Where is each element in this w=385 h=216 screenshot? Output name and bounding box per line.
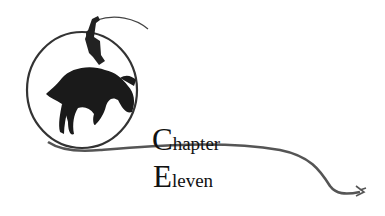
heading-word-leven: leven (172, 170, 213, 191)
drop-cap-e: E (153, 159, 172, 194)
chapter-heading-line1: Chapter (152, 124, 220, 155)
heading-word-hapter: hapter (173, 133, 220, 154)
chapter-heading-line2: Eleven (153, 161, 213, 192)
drop-cap-c: C (152, 122, 173, 157)
